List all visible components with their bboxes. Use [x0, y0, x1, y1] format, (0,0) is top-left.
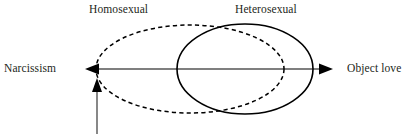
label-homosexual: Homosexual: [89, 3, 148, 16]
label-narcissism: Narcissism: [4, 62, 56, 75]
arrow-left-icon: [85, 64, 99, 75]
venn-diagram: Homosexual Heterosexual Narcissism Objec…: [0, 0, 413, 134]
label-object-love: Object love: [347, 62, 401, 75]
arrow-up-icon: [92, 78, 102, 92]
label-heterosexual: Heterosexual: [235, 3, 297, 16]
arrow-right-icon: [319, 64, 333, 75]
